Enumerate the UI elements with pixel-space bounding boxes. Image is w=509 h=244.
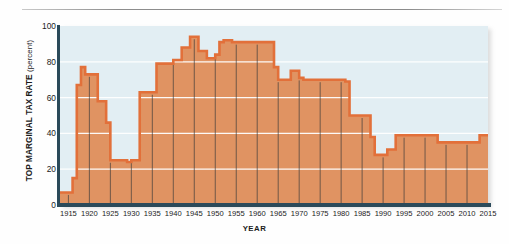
x-tick-2005: 2005: [438, 209, 455, 218]
y-tick-100: 100: [30, 21, 56, 31]
x-tick-2000: 2000: [417, 209, 434, 218]
y-tick-40: 40: [30, 128, 56, 138]
area-chart-svg: [60, 26, 488, 205]
y-tick-60: 60: [30, 93, 56, 103]
plot-area-wrapper: [60, 26, 488, 205]
x-tick-1925: 1925: [102, 209, 119, 218]
x-tick-1965: 1965: [270, 209, 287, 218]
y-tick-80: 80: [30, 57, 56, 67]
x-tick-1940: 1940: [165, 209, 182, 218]
x-tick-1955: 1955: [228, 209, 245, 218]
y-tick-20: 20: [30, 164, 56, 174]
x-tick-1970: 1970: [291, 209, 308, 218]
figure-page: TOP MARGINAL TAX RATE (percent) 02040608…: [0, 0, 509, 244]
x-axis-title: YEAR: [0, 224, 509, 233]
x-axis-tick-labels: 1915192019251930193519401945195019551960…: [0, 209, 509, 223]
x-tick-1945: 1945: [186, 209, 203, 218]
x-tick-2010: 2010: [459, 209, 476, 218]
x-axis-line: [57, 203, 491, 207]
x-tick-1950: 1950: [207, 209, 224, 218]
plot-area: [60, 26, 488, 205]
x-tick-1960: 1960: [249, 209, 266, 218]
x-tick-1920: 1920: [81, 209, 98, 218]
x-tick-1935: 1935: [144, 209, 161, 218]
x-tick-1995: 1995: [396, 209, 413, 218]
x-tick-1915: 1915: [60, 209, 77, 218]
x-tick-1975: 1975: [312, 209, 329, 218]
tax-rate-chart: TOP MARGINAL TAX RATE (percent) 02040608…: [0, 0, 509, 244]
x-tick-1930: 1930: [123, 209, 140, 218]
x-tick-1990: 1990: [375, 209, 392, 218]
y-axis-tick-labels: 020406080100: [30, 0, 56, 244]
x-tick-1985: 1985: [354, 209, 371, 218]
x-tick-1980: 1980: [333, 209, 350, 218]
x-tick-2015: 2015: [480, 209, 497, 218]
